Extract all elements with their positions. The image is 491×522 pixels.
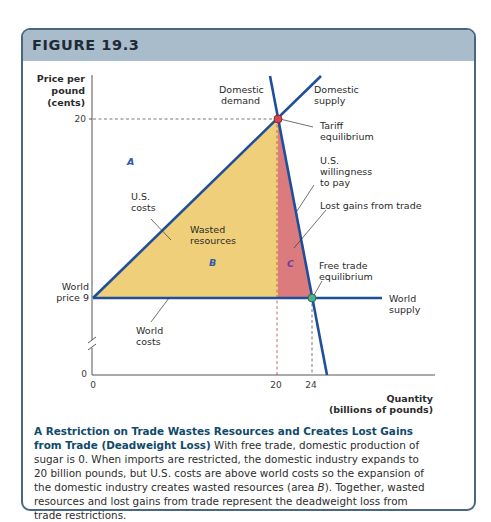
y-axis-title-2: pound [51,85,85,96]
x-tick-20: 20 [270,380,282,390]
us-wtp-label-2: willingness [320,166,372,177]
y-tick-20: 20 [75,114,87,124]
x-axis-title-2: (billions of pounds) [329,404,433,415]
wasted-resources-label-2: resources [190,235,236,246]
leader-tariff [280,119,313,127]
y-tick-0: 0 [81,369,87,379]
domestic-supply-label-1: Domestic [314,84,359,95]
caption-em: B [318,481,325,493]
area-b-label: B [209,257,216,268]
free-trade-equilibrium-label-2: equilibrium [319,271,373,282]
us-costs-label-1: U.S. [131,191,150,202]
world-price-label-2: price 9 [56,292,89,303]
tariff-equilibrium-label-1: Tariff [319,120,344,131]
us-wtp-label-3: to pay [320,177,350,188]
us-costs-label-2: costs [131,202,156,213]
world-costs-label-2: costs [136,336,161,347]
world-supply-label-1: World [389,293,416,304]
x-axis-title-1: Quantity [386,393,433,404]
domestic-supply-label-2: supply [314,95,346,106]
x-tick-24: 24 [305,380,317,390]
tariff-equilibrium-point [274,115,282,123]
world-supply-label-2: supply [389,304,421,315]
figure-caption: A Restriction on Trade Wastes Resources … [34,424,434,522]
us-wtp-label-1: U.S. [320,155,339,166]
y-axis-title-3: (cents) [47,97,85,108]
tariff-equilibrium-label-2: equilibrium [320,131,374,142]
area-a-label: A [126,156,134,167]
domestic-demand-label-2: demand [221,95,260,106]
leader-world-costs [151,298,169,322]
free-trade-equilibrium-label-1: Free trade [319,260,368,271]
x-tick-0: 0 [90,380,96,390]
lost-gains-label: Lost gains from trade [320,200,422,211]
domestic-demand-label-1: Domestic [219,84,264,95]
leader-us-wtp [297,185,314,211]
world-price-label-1: World [62,281,89,292]
world-costs-label-1: World [136,325,163,336]
area-c-label: C [287,258,294,269]
y-axis-title-1: Price per [37,73,86,84]
wasted-resources-label-1: Wasted [190,224,225,235]
free-trade-equilibrium-point [308,294,316,302]
